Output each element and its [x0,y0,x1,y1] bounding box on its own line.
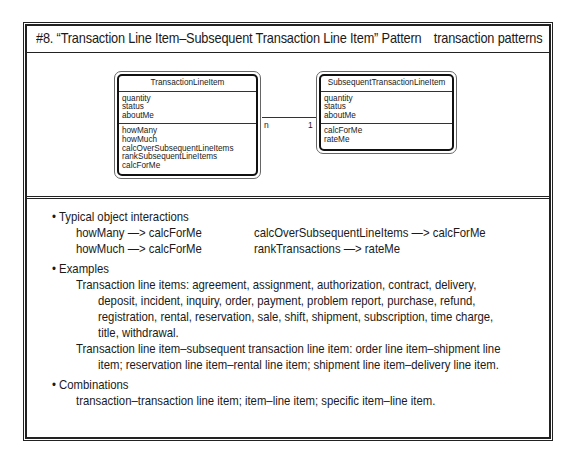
pattern-card: #8. “Transaction Line Item–Subsequent Tr… [23,22,553,441]
pattern-description: • Typical object interactions howMany —>… [26,199,550,438]
interaction-item: howMuch —> calcForMe [76,241,202,257]
examples-line: deposit, incident, inquiry, order, payme… [98,293,475,309]
examples-line: title, withdrawal. [98,325,179,341]
pattern-title: #8. “Transaction Line Item–Subsequent Tr… [36,30,421,46]
class-name: TransactionLineItem [119,76,256,92]
pattern-category: transaction patterns [433,30,542,46]
attribute: aboutMe [122,112,253,121]
service: calcForMe [122,162,253,171]
combinations-heading: • Combinations [52,377,128,393]
examples-heading: • Examples [52,261,109,277]
combinations-text: transaction–transaction line item; item–… [76,393,435,409]
class-diagram: TransactionLineItem quantity status abou… [26,53,550,199]
association-line [262,117,318,118]
examples-line: registration, rental, reservation, sale,… [98,309,493,325]
class-name: SubsequentTransactionLineItem [321,76,452,92]
class-attributes: quantity status aboutMe [321,92,452,125]
interaction-item: rankTransactions —> rateMe [254,241,400,257]
attribute: aboutMe [324,112,449,121]
interactions-heading: • Typical object interactions [52,209,189,225]
multiplicity-n: n [264,120,269,130]
pattern-header: #8. “Transaction Line Item–Subsequent Tr… [26,25,550,53]
examples-line: Transaction line items: agreement, assig… [76,277,476,293]
interaction-item: calcOverSubsequentLineItems —> calcForMe [254,225,486,241]
multiplicity-1: 1 [308,120,313,130]
service: rateMe [324,136,449,145]
class-box-transaction-line-item: TransactionLineItem quantity status abou… [114,71,261,179]
interaction-item: howMany —> calcForMe [76,225,202,241]
class-services: calcForMe rateMe [321,124,452,148]
examples-line: Transaction line item–subsequent transac… [76,341,500,357]
examples-line: item; reservation line item–rental line … [98,357,499,373]
class-services: howMany howMuch calcOverSubsequentLineIt… [119,124,256,174]
class-box-subsequent-transaction-line-item: SubsequentTransactionLineItem quantity s… [316,71,457,154]
class-attributes: quantity status aboutMe [119,92,256,125]
